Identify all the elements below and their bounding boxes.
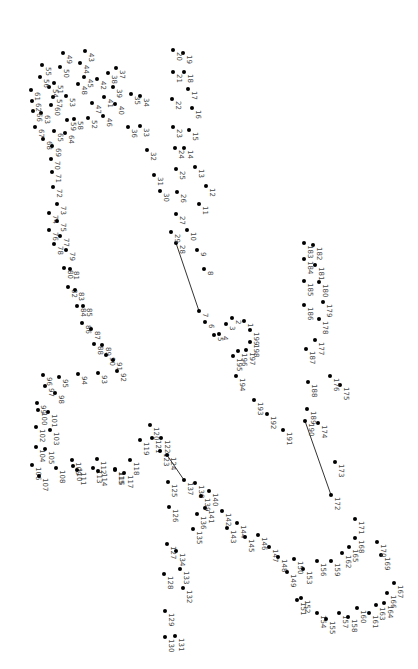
dot-label: 59 <box>69 122 76 131</box>
dot-label: 28 <box>178 245 185 254</box>
dot-label: 20 <box>175 52 182 61</box>
dot-label: 118 <box>132 462 139 475</box>
dot-label: 173 <box>337 464 344 477</box>
dot-label: 33 <box>142 128 149 137</box>
dot-label: 76 <box>51 232 58 241</box>
dot-label: 175 <box>342 387 349 400</box>
dot-label: 129 <box>167 613 174 626</box>
dot-label: 194 <box>238 378 245 391</box>
dot-label: 145 <box>247 539 254 552</box>
dot-label: 49 <box>65 55 72 64</box>
dot-label: 188 <box>310 384 317 397</box>
dot-label: 155 <box>328 621 335 634</box>
dot-label: 1 <box>246 323 253 327</box>
dot-label: 13 <box>197 169 204 178</box>
dot-label: 171 <box>357 521 364 534</box>
dot-label: 5 <box>216 337 223 341</box>
dot-label: 61 <box>33 92 40 101</box>
dot-label: 161 <box>371 615 378 628</box>
dot-label: 64 <box>67 135 74 144</box>
dot-label: 160 <box>359 610 366 623</box>
dot-label: 163 <box>378 607 385 620</box>
dot-label: 153 <box>305 571 312 584</box>
dot-label: 43 <box>87 53 94 62</box>
dot-label: 7 <box>201 313 208 317</box>
dot-label: 111 <box>79 472 86 485</box>
dot-label: 199 <box>252 332 259 345</box>
dot-label: 134 <box>178 553 185 566</box>
dot-label: 146 <box>260 537 267 550</box>
dot-label: 8 <box>206 271 213 275</box>
dot-label: 177 <box>317 342 324 355</box>
dot-label: 6 <box>207 324 214 328</box>
dot-label: 131 <box>177 638 184 651</box>
dot-label: 22 <box>174 101 181 110</box>
dot-label: 53 <box>68 98 75 107</box>
dot-label: 88 <box>96 346 103 355</box>
dot-label: 42 <box>99 81 106 90</box>
dot-label: 130 <box>167 639 174 652</box>
dot-label: 24 <box>177 150 184 159</box>
dot-label: 119 <box>142 442 149 455</box>
dot-label: 133 <box>182 571 189 584</box>
dot-label: 71 <box>54 174 61 183</box>
dot-label: 104 <box>38 449 45 462</box>
dot-label: 187 <box>308 351 315 364</box>
dot-label: 52 <box>90 120 97 129</box>
dot-label: 19 <box>185 55 192 64</box>
dot-label: 11 <box>201 206 208 215</box>
dot-label: 192 <box>269 416 276 429</box>
dot-label: 183 <box>306 245 313 258</box>
dot-label: 159 <box>333 563 340 576</box>
dot-label: 15 <box>191 132 198 141</box>
dot-label: 186 <box>306 307 313 320</box>
dot-label: 66 <box>35 113 42 122</box>
dot-label: 72 <box>55 189 62 198</box>
dot-label: 135 <box>195 531 202 544</box>
dot-label: 48 <box>80 86 87 95</box>
dot-label: 156 <box>319 563 326 576</box>
dot-label: 70 <box>53 161 60 170</box>
dot-label: 79 <box>68 252 75 261</box>
dot-label: 2 <box>234 320 241 324</box>
dot-label: 32 <box>149 152 156 161</box>
dot-label: 196 <box>240 353 247 366</box>
dot-label: 136 <box>199 516 206 529</box>
dot-label: 103 <box>52 432 59 445</box>
dot-label: 190 <box>307 423 314 436</box>
dot-label: 69 <box>54 148 61 157</box>
dot-label: 180 <box>321 284 328 297</box>
dot-label: 179 <box>325 304 332 317</box>
dot-label: 40 <box>117 106 124 115</box>
dot-label: 142 <box>224 513 231 526</box>
dot-label: 29 <box>173 234 180 243</box>
dot-label: 176 <box>332 378 339 391</box>
dot-label: 158 <box>350 619 357 632</box>
dot-label: 102 <box>38 429 45 442</box>
dot-label: 107 <box>41 478 48 491</box>
dot-label: 41 <box>106 99 113 108</box>
dot-label: 181 <box>317 267 324 280</box>
dot-label: 36 <box>130 129 137 138</box>
dot-label: 58 <box>76 121 83 130</box>
dot-label: 125 <box>170 484 177 497</box>
dot-label: 50 <box>62 69 69 78</box>
dot-label: 73 <box>59 206 66 215</box>
dot-label: 184 <box>306 261 313 274</box>
dot-label: 128 <box>166 576 173 589</box>
dot-label: 132 <box>185 590 192 603</box>
dot-label: 34 <box>142 98 149 107</box>
dot-label: 182 <box>315 247 322 260</box>
dot-label: 162 <box>344 555 351 568</box>
dot-label: 124 <box>169 457 176 470</box>
dot-label: 18 <box>186 74 193 83</box>
dot-label: 16 <box>194 110 201 119</box>
dot-label: 168 <box>357 540 364 553</box>
dot-label: 141 <box>207 510 214 523</box>
dot-label: 169 <box>383 557 390 570</box>
dot-label: 25 <box>178 171 185 180</box>
dot-label: 65 <box>56 133 63 142</box>
dot-label: 178 <box>321 321 328 334</box>
dot-label: 85 <box>85 308 92 317</box>
dot-label: 39 <box>115 89 122 98</box>
